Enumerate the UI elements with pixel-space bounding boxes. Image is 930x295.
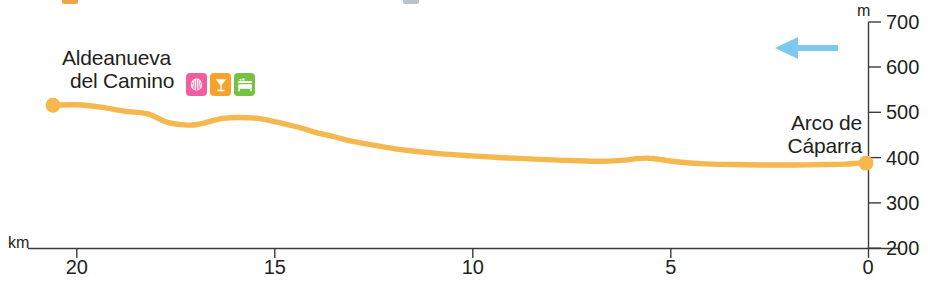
end-waypoint-marker (859, 156, 874, 171)
start-waypoint-label-line1: Aldeanueva (62, 47, 174, 70)
x-axis-unit-label: km (8, 234, 29, 252)
accommodation-icon (234, 73, 255, 96)
y-tick-label-400: 400 (886, 146, 919, 169)
y-tick-label-600: 600 (886, 56, 919, 79)
end-waypoint-label-line1: Arco de (788, 112, 862, 135)
restaurant-icon (210, 73, 231, 96)
x-tick-label-20: 20 (66, 256, 88, 279)
x-tick-label-10: 10 (462, 256, 484, 279)
start-waypoint-label-line2: del Camino (70, 70, 174, 93)
x-tick-label-5: 5 (665, 256, 676, 279)
poi-icon-row (186, 73, 255, 96)
elevation-profile-chart: Aldeanueva del Camino (0, 0, 930, 295)
elevation-line (53, 105, 866, 165)
pilgrim-shell-icon (186, 73, 207, 96)
end-waypoint-label: Arco de Cáparra (788, 112, 862, 157)
direction-arrow-icon (775, 37, 838, 59)
x-tick-label-15: 15 (264, 256, 286, 279)
y-tick-label-200: 200 (886, 237, 919, 260)
y-tick-label-300: 300 (886, 191, 919, 214)
end-waypoint-label-line2: Cáparra (788, 135, 862, 158)
x-tick-label-0: 0 (862, 256, 873, 279)
y-tick-label-700: 700 (886, 11, 919, 34)
y-tick-label-500: 500 (886, 101, 919, 124)
y-axis-unit-label: m (857, 2, 870, 20)
start-waypoint-marker (46, 98, 61, 113)
start-waypoint-label: Aldeanueva del Camino (62, 47, 174, 92)
y-axis-ticks (869, 22, 882, 248)
